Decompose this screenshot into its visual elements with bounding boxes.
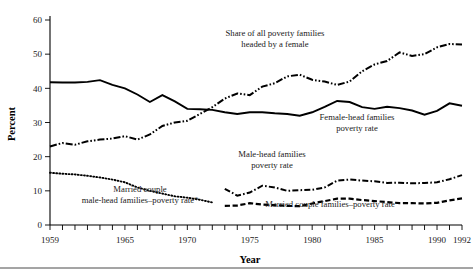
x-tick-label: 1975 [241, 235, 260, 245]
annot-female-head: Female-head families [319, 112, 395, 122]
series-line-0 [50, 80, 462, 116]
x-tick-label: 1980 [303, 235, 322, 245]
x-tick-label: 1985 [366, 235, 385, 245]
annot-share-female: headed by a female [241, 39, 308, 49]
x-tick-label: 1990 [428, 235, 447, 245]
x-tick-label: 1970 [178, 235, 197, 245]
annot-married-couple-rate: Married couple families–poverty rate [265, 199, 395, 209]
annot-male-head: Male-head families [238, 149, 306, 159]
y-tick-label: 40 [33, 84, 43, 94]
x-tick-label: 1965 [116, 235, 135, 245]
x-tick-label: 1992 [453, 235, 471, 245]
x-tick-label: 1959 [41, 235, 60, 245]
annot-male-head: poverty rate [251, 160, 293, 170]
annotations-group: Share of all poverty familiesheaded by a… [82, 28, 395, 209]
tick-labels-group: 0102030405060195919651970197519801985199… [33, 15, 471, 245]
annot-married-male-head: male-head families–poverty rate* [82, 195, 199, 205]
annot-share-female: Share of all poverty families [226, 28, 326, 38]
series-group [50, 44, 462, 206]
y-tick-label: 20 [33, 152, 43, 162]
series-line-1 [50, 44, 462, 147]
series-line-3 [225, 175, 462, 196]
chart-plot-area: 0102030405060195919651970197519801985199… [0, 0, 473, 269]
annot-female-head: poverty rate [336, 123, 378, 133]
annot-married-male-head: Married couple [113, 184, 166, 194]
y-tick-label: 60 [33, 15, 43, 25]
x-axis-title: Year [240, 254, 261, 265]
y-axis-title: Percent [6, 106, 17, 141]
y-tick-label: 50 [33, 49, 43, 59]
y-tick-label: 0 [38, 220, 43, 230]
y-tick-label: 30 [33, 118, 43, 128]
poverty-rate-chart-figure: 0102030405060195919651970197519801985199… [0, 0, 473, 269]
y-tick-label: 10 [33, 186, 43, 196]
